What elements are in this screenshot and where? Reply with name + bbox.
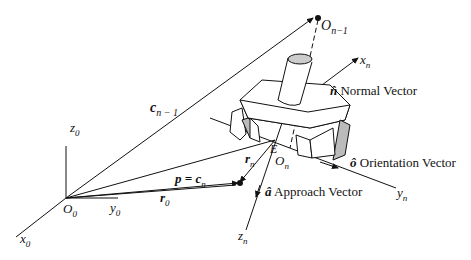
label-c-prev: cn − 1 xyxy=(150,100,178,118)
label-On: On xyxy=(275,153,289,171)
diagram-canvas: On−1 xn n̂ Normal Vector cn − 1 z0 E On … xyxy=(0,0,471,260)
label-orientation-vector: ô Orientation Vector xyxy=(350,155,457,170)
label-normal-vector: n̂ Normal Vector xyxy=(330,83,418,98)
label-r0: r0 xyxy=(160,190,170,208)
gripper-frames-diagram: On−1 xn n̂ Normal Vector cn − 1 z0 E On … xyxy=(0,0,471,260)
label-zn: zn xyxy=(237,228,248,246)
label-yn: yn xyxy=(395,185,408,203)
label-O-prev: On−1 xyxy=(321,18,348,36)
p-point xyxy=(237,180,243,186)
label-y0: y0 xyxy=(108,200,121,218)
label-p-eq-cn: p = cn xyxy=(174,171,206,189)
label-rn: rn xyxy=(245,151,255,169)
label-xn: xn xyxy=(359,52,371,70)
xn-axis xyxy=(322,58,358,85)
label-approach-vector: â Approach Vector xyxy=(265,184,363,199)
label-x0: x0 xyxy=(19,231,31,249)
r0-vector xyxy=(66,185,236,198)
label-O0: O0 xyxy=(63,201,77,219)
label-z0: z0 xyxy=(69,120,80,138)
